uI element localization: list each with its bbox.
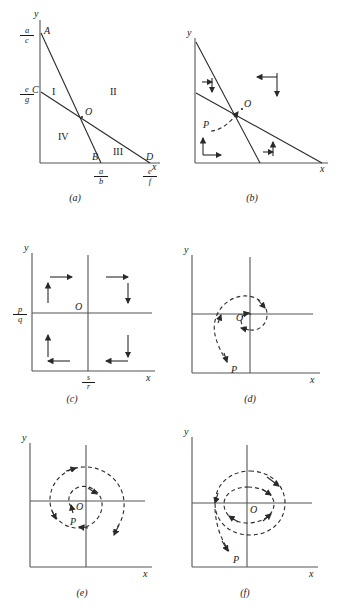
panel-f-caption: (f) (225, 587, 265, 598)
panel-e-caption: (e) (62, 587, 102, 598)
intercept-e-over-f: e f (143, 167, 157, 186)
panel-b: y x O P (b) (170, 0, 339, 220)
panel-f: y x O P (f) (170, 415, 339, 615)
region-label-iv: IV (58, 131, 69, 142)
axis-y-label: y (186, 27, 192, 38)
origin-label: O (75, 301, 82, 312)
axis-x-label: x (142, 568, 148, 579)
trajectory-label-p: P (69, 516, 76, 527)
panel-e: y x O P (e) (0, 415, 170, 615)
region-label-i: I (52, 86, 55, 97)
panel-d-caption: (d) (230, 393, 270, 404)
panel-c-caption: (c) (52, 393, 92, 404)
axis-x-label: x (319, 163, 325, 174)
nullcline-label-p-over-q: p q (13, 305, 27, 324)
panel-d: y x O P (d) (170, 225, 339, 415)
axis-x-label: x (145, 372, 151, 383)
intercept-numerator: a (20, 26, 34, 35)
intercept-numerator: e (20, 85, 34, 94)
origin-label: O (236, 312, 243, 323)
point-label-o: O (85, 106, 92, 117)
point-label-b: B (92, 151, 98, 162)
intercept-e-over-g: e g (20, 85, 34, 104)
intercept-denominator: c (20, 35, 34, 45)
region-label-ii: II (110, 86, 117, 97)
axis-y-label: y (183, 426, 189, 437)
intercept-denominator: b (94, 176, 108, 186)
axis-y-label: y (21, 432, 27, 443)
trajectory-label-p: P (232, 554, 239, 565)
trajectory-label-p: P (202, 119, 209, 130)
panel-a-caption: (a) (55, 192, 95, 203)
intercept-numerator: a (94, 167, 108, 176)
panel-c: y x O p q s r (c) (0, 225, 170, 415)
axis-x-label: x (308, 568, 314, 579)
axis-x-label: x (309, 374, 315, 385)
nullcline-denominator: q (13, 314, 27, 324)
nullcline-label-s-over-r: s r (82, 374, 95, 391)
axis-y-label: y (23, 242, 29, 253)
origin-label: O (250, 504, 257, 515)
region-label-iii: III (113, 146, 123, 157)
point-label-a: A (43, 25, 51, 36)
panel-a: y x A C O B D I II III IV a c e g a b e … (0, 0, 170, 220)
intercept-a-over-b: a b (94, 167, 108, 186)
intercept-a-over-c: a c (20, 26, 34, 45)
intercept-denominator: f (143, 176, 157, 186)
nullcline-denominator: r (82, 382, 95, 391)
axis-y-label: y (183, 244, 189, 255)
trajectory-label-p: P (230, 364, 237, 375)
origin-label: O (244, 98, 251, 109)
point-label-d: D (145, 151, 154, 162)
panel-e-labels: y x O P (0, 415, 170, 590)
nullcline-numerator: s (82, 374, 95, 382)
panel-b-caption: (b) (232, 192, 272, 203)
panel-d-labels: y x O P (170, 225, 339, 395)
nullcline-numerator: p (13, 305, 27, 314)
panel-b-labels: y x O P (170, 0, 339, 200)
axis-y-label: y (33, 8, 39, 19)
panel-f-labels: y x O P (170, 415, 339, 590)
origin-label: O (76, 501, 83, 512)
intercept-denominator: g (20, 94, 34, 104)
intercept-numerator: e (143, 167, 157, 176)
